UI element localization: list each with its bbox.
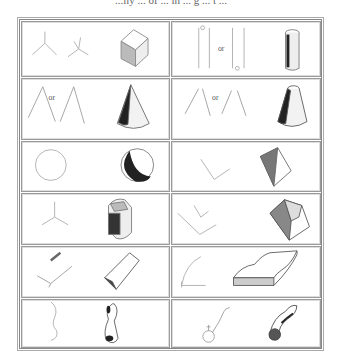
curved-slab-sketch-icon bbox=[172, 247, 320, 297]
panel-parallel-lines-to-cylinder: or bbox=[171, 21, 321, 77]
truncated-cone-sketch-icon: or bbox=[172, 79, 320, 139]
panel-converging-lines-to-frustum: or bbox=[171, 78, 321, 140]
sphere-sketch-icon bbox=[22, 142, 169, 191]
panel-y-joint-to-block bbox=[21, 193, 170, 245]
truncated-pyramid-sketch-icon bbox=[172, 194, 320, 244]
panel-curve-circle-to-gourd bbox=[171, 299, 321, 348]
panel-y-joints-to-cube bbox=[21, 21, 170, 77]
wedge-sketch-icon bbox=[172, 142, 320, 191]
panel-v-lines-to-wedge bbox=[171, 141, 321, 192]
panel-converging-lines-to-cone: or bbox=[21, 78, 170, 140]
cube-sketch-icon bbox=[22, 22, 169, 76]
cylinder-sketch-icon: or bbox=[172, 22, 320, 76]
peanut-sketch-icon bbox=[22, 300, 169, 347]
gourd-sketch-icon bbox=[172, 300, 320, 347]
or-label: or bbox=[218, 44, 225, 53]
or-label: or bbox=[212, 93, 219, 102]
panel-s-curve-to-peanut bbox=[21, 299, 170, 348]
cone-sketch-icon: or bbox=[22, 79, 169, 139]
slab-sketch-icon bbox=[22, 247, 169, 297]
panel-corner-lines-to-slab bbox=[21, 246, 170, 298]
block-sketch-icon bbox=[22, 194, 169, 244]
panel-curve-to-curved-slab bbox=[171, 246, 321, 298]
or-label: or bbox=[49, 93, 56, 102]
page-caption: ...ily ... of ... lh ... g ... t ... bbox=[0, 0, 342, 6]
panel-circle-to-sphere bbox=[21, 141, 170, 192]
panel-nested-v-to-frustum-pyramid bbox=[171, 193, 321, 245]
